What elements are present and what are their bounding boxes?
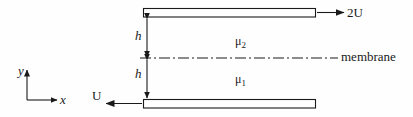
bottom-plate bbox=[144, 100, 316, 109]
top-plate bbox=[144, 9, 316, 18]
couette-flow-diagram: 2U membrane μ2 μ1 h h U y x bbox=[0, 0, 413, 117]
upper-viscosity-label: μ2 bbox=[235, 35, 246, 50]
lower-viscosity-label: μ1 bbox=[235, 73, 246, 88]
membrane-label: membrane bbox=[341, 50, 396, 63]
y-axis-label: y bbox=[18, 64, 24, 77]
upper-viscosity-subscript: 2 bbox=[241, 40, 246, 50]
gap-lower-label: h bbox=[135, 67, 142, 80]
gap-upper-label: h bbox=[135, 29, 142, 42]
x-axis-label: x bbox=[60, 93, 66, 106]
lower-viscosity-subscript: 1 bbox=[241, 78, 246, 88]
top-plate-velocity-label: 2U bbox=[347, 6, 363, 19]
bottom-plate-velocity-label: U bbox=[92, 89, 101, 102]
